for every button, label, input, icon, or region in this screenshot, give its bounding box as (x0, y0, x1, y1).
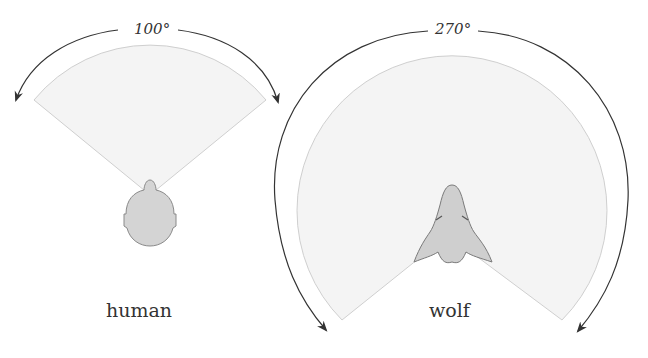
wolf-label: wolf (429, 299, 470, 321)
human-angle-label: 100° (131, 20, 173, 38)
wolf-panel (274, 31, 628, 331)
field-of-view-diagram (0, 0, 648, 358)
human-vision-sector (34, 45, 266, 195)
human-panel (16, 30, 278, 246)
human-label: human (106, 299, 172, 321)
wolf-angle-label: 270° (432, 20, 474, 38)
human-head-icon (124, 180, 176, 246)
